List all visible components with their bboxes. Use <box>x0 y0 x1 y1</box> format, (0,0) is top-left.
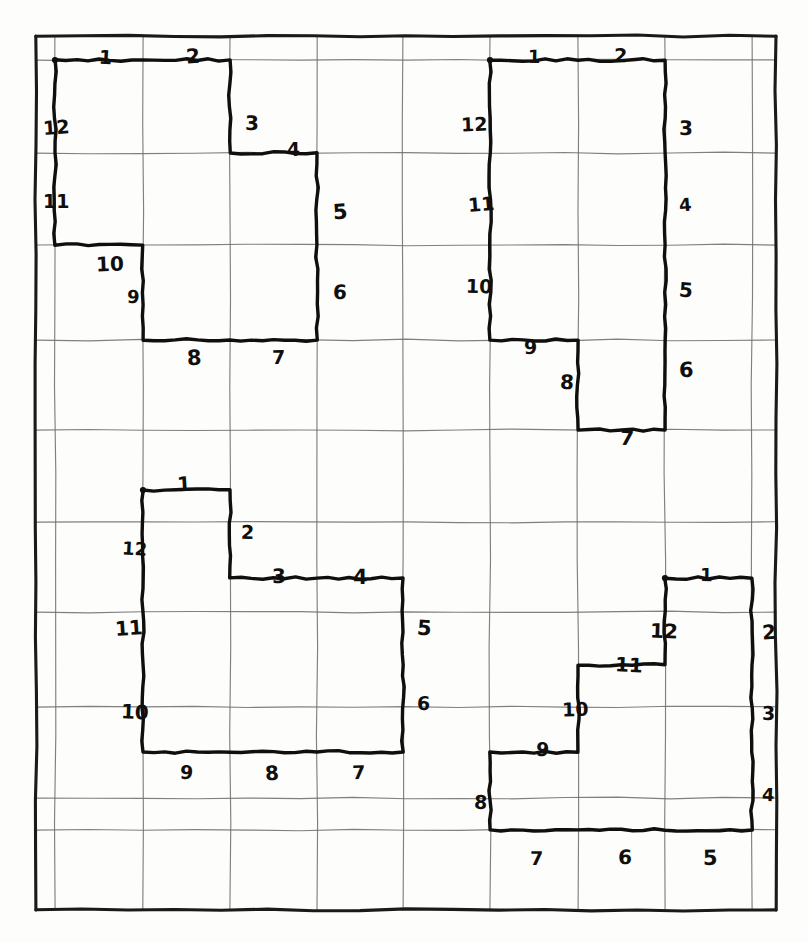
segment-number-label: 4 <box>287 140 300 159</box>
segment-number-label: 6 <box>417 694 431 713</box>
segment-number-label: 9 <box>535 739 550 759</box>
segment-number-label: 5 <box>416 617 432 639</box>
segment-number-label: 1 <box>700 566 713 584</box>
segment-number-label: 7 <box>530 849 543 868</box>
segment-number-label: 2 <box>241 523 255 542</box>
segment-number-label: 4 <box>762 786 775 804</box>
figure-top-left <box>54 59 319 341</box>
segment-number-label: 8 <box>473 793 487 813</box>
segment-number-label: 4 <box>353 567 368 588</box>
segment-number-label: 3 <box>679 118 693 138</box>
segment-number-label: 7 <box>619 428 634 449</box>
segment-number-label: 7 <box>352 763 366 782</box>
segment-number-label: 12 <box>461 115 488 135</box>
segment-number-label: 8 <box>560 372 575 393</box>
segment-number-label: 7 <box>272 348 285 367</box>
segment-number-label: 6 <box>333 282 348 302</box>
segment-number-label: 5 <box>703 848 718 869</box>
segment-number-label: 10 <box>466 277 493 297</box>
segment-number-label: 1 <box>98 48 112 68</box>
segment-number-label: 12 <box>42 117 70 138</box>
figure-bottom-left-start-dot <box>140 487 146 493</box>
segment-number-label: 2 <box>761 622 776 643</box>
start-dots <box>52 57 668 581</box>
figure-bottom-left <box>142 489 404 753</box>
segment-number-label: 11 <box>615 654 644 675</box>
figure-top-right-start-dot <box>487 57 493 63</box>
segment-number-label: 10 <box>562 700 589 720</box>
segment-number-label: 6 <box>618 847 632 867</box>
segment-number-label: 11 <box>467 194 495 215</box>
segment-number-label: 2 <box>185 46 200 67</box>
worksheet-sheet: 1234567891011121234567891011121234567891… <box>0 0 808 942</box>
grid-diagram-canvas <box>0 0 808 942</box>
segment-number-label: 4 <box>678 196 692 215</box>
segment-number-label: 6 <box>679 360 694 381</box>
figure-bottom-right-start-dot <box>662 575 668 581</box>
segment-number-label: 2 <box>614 46 627 65</box>
segment-number-label: 9 <box>524 338 537 357</box>
segment-number-label: 9 <box>127 288 140 307</box>
segment-number-label: 10 <box>96 253 125 274</box>
segment-number-label: 3 <box>272 566 287 586</box>
segment-number-label: 5 <box>332 201 348 223</box>
figure-top-left-start-dot <box>52 57 58 63</box>
segment-number-label: 11 <box>43 192 70 211</box>
figure-bottom-right <box>489 577 753 831</box>
segment-number-label: 12 <box>650 620 679 641</box>
segment-number-label: 3 <box>762 704 775 723</box>
segment-number-label: 11 <box>114 617 143 639</box>
segment-number-label: 3 <box>245 113 259 133</box>
segment-number-label: 1 <box>528 48 541 66</box>
segment-number-label: 10 <box>121 701 150 722</box>
segment-number-label: 9 <box>179 763 194 783</box>
segment-number-label: 12 <box>121 539 147 559</box>
segment-number-label: 1 <box>176 474 191 495</box>
segment-number-label: 5 <box>678 280 693 301</box>
segment-number-label: 8 <box>187 348 203 370</box>
segment-number-label: 8 <box>264 763 279 784</box>
